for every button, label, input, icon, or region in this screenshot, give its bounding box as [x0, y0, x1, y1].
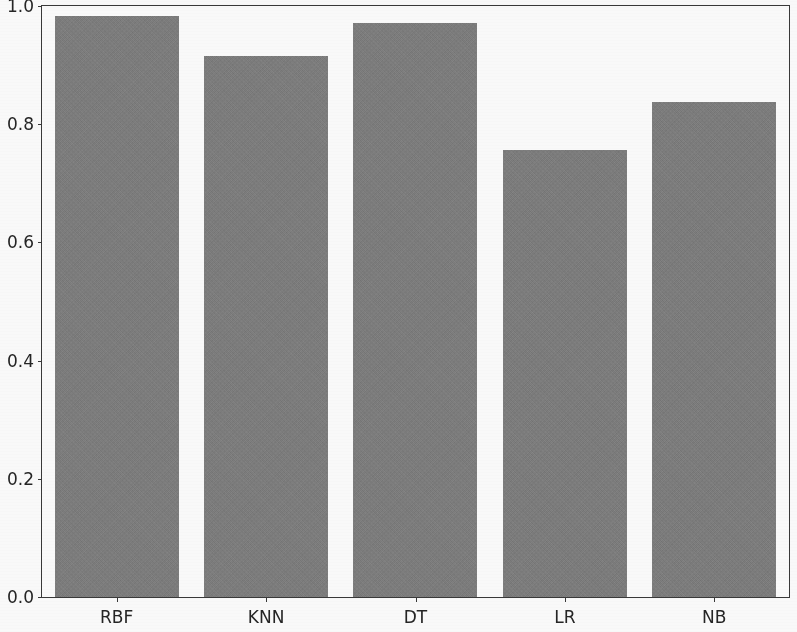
y-tick-mark: [38, 361, 42, 362]
x-tick-label-dt: DT: [404, 609, 427, 626]
y-tick-mark: [38, 6, 42, 7]
x-tick-mark: [266, 597, 267, 602]
plot-area: [42, 6, 789, 597]
chart-axes: 0.00.20.40.60.81.0 RBFKNNDTLRNB: [41, 5, 790, 598]
y-tick-label: 0.2: [7, 470, 34, 487]
y-tick-label: 0.0: [7, 589, 34, 606]
bar-lr: [503, 150, 627, 597]
bar-dt: [353, 23, 477, 597]
y-tick-label: 1.0: [7, 0, 34, 15]
x-tick-label-lr: LR: [554, 609, 575, 626]
x-tick-label-knn: KNN: [248, 609, 285, 626]
y-tick-mark: [38, 242, 42, 243]
x-tick-mark: [565, 597, 566, 602]
x-tick-mark: [416, 597, 417, 602]
bar-rbf: [55, 16, 179, 597]
x-tick-mark: [117, 597, 118, 602]
y-tick-label: 0.8: [7, 116, 34, 133]
y-tick-mark: [38, 479, 42, 480]
y-tick-label: 0.4: [7, 352, 34, 369]
y-tick-mark: [38, 597, 42, 598]
x-tick-label-nb: NB: [702, 609, 726, 626]
y-tick-label: 0.6: [7, 234, 34, 251]
y-tick-mark: [38, 124, 42, 125]
bar-knn: [204, 56, 328, 597]
x-tick-mark: [714, 597, 715, 602]
bar-nb: [652, 102, 776, 597]
bar-chart-figure: 0.00.20.40.60.81.0 RBFKNNDTLRNB: [0, 0, 797, 632]
x-tick-label-rbf: RBF: [100, 609, 133, 626]
